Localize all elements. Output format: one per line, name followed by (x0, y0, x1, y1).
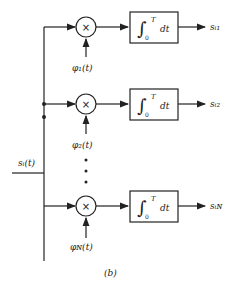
svg-text:dt: dt (160, 203, 170, 213)
svg-text:0: 0 (145, 111, 149, 118)
svg-text:0: 0 (145, 213, 149, 220)
basis-1-label: φ₁(t) (72, 63, 93, 73)
svg-text:dt: dt (160, 24, 170, 34)
figure-caption: (b) (104, 268, 117, 278)
output-n-label: sᵢɴ (210, 201, 222, 211)
svg-text:T: T (151, 93, 157, 101)
basis-n-label: φɴ(t) (70, 242, 93, 252)
correlator-diagram: × × × ∫0Tdt ∫0Tdt ∫0Tdt (0, 0, 233, 287)
output-2-label: sᵢ₂ (210, 99, 220, 109)
svg-text:T: T (151, 195, 157, 203)
input-signal-label: sᵢ(t) (18, 158, 35, 168)
svg-text:dt: dt (160, 101, 170, 111)
svg-text:×: × (82, 22, 90, 33)
svg-text:T: T (151, 16, 157, 24)
output-1-label: sᵢ₁ (210, 22, 220, 32)
svg-text:×: × (82, 99, 90, 110)
svg-text:×: × (82, 201, 90, 212)
svg-text:0: 0 (145, 34, 149, 41)
basis-2-label: φ₂(t) (72, 140, 93, 150)
